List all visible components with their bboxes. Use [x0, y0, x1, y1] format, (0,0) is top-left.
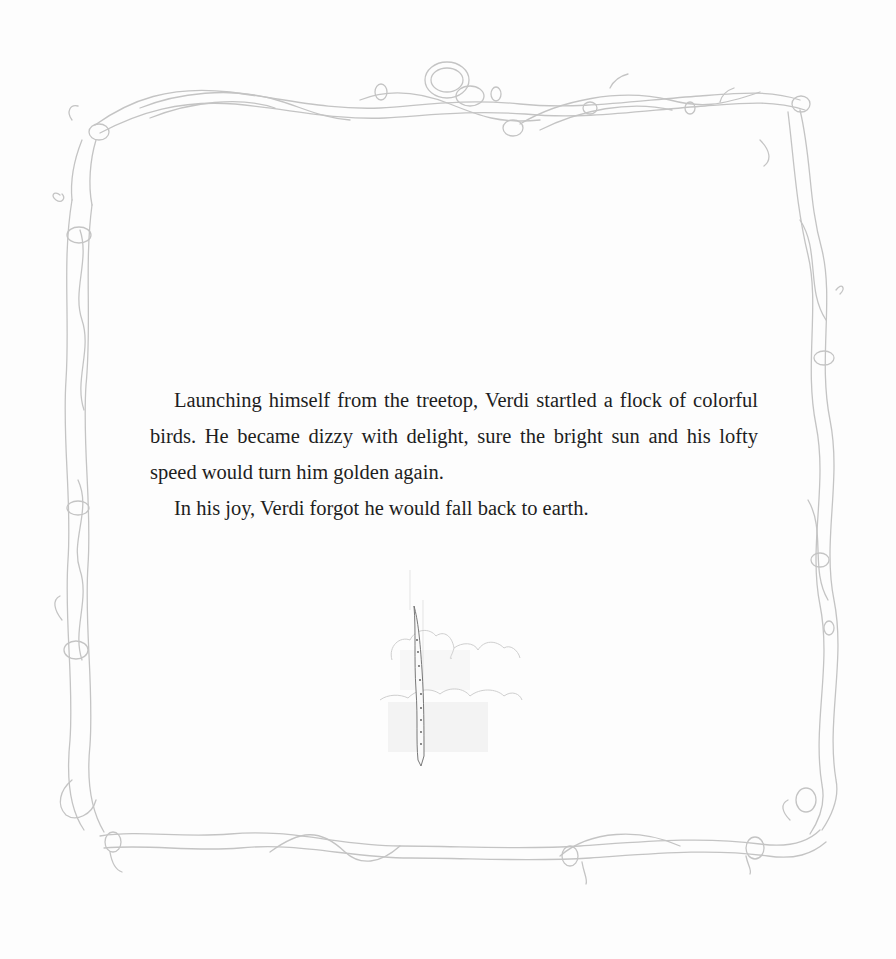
story-paragraph-1: Launching himself from the treetop, Verd… — [150, 382, 758, 490]
story-text: Launching himself from the treetop, Verd… — [150, 382, 758, 526]
right-vine — [760, 96, 843, 834]
top-vine — [95, 62, 805, 136]
left-vine — [55, 200, 104, 832]
book-page: Launching himself from the treetop, Verd… — [0, 0, 896, 959]
falling-caterpillar-illustration — [370, 570, 530, 780]
bottom-vine — [100, 830, 826, 884]
cloud-lower — [380, 650, 522, 752]
story-paragraph-2: In his joy, Verdi forgot he would fall b… — [150, 490, 758, 526]
